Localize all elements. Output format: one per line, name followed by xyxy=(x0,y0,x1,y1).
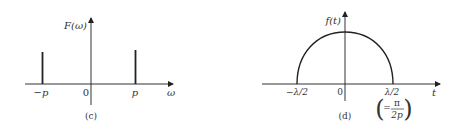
lambda-annotation: ( = π 2p ) xyxy=(375,95,412,123)
figure-canvas: F(ω) ω −p 0 p (c) f(t) t −λ/2 0 λ/2 ( = … xyxy=(0,0,459,130)
x-axis-label: t xyxy=(432,87,437,98)
tick-label-neg-p: −p xyxy=(34,87,49,98)
equals-sign: = xyxy=(383,103,391,113)
tick-label-half-lambda: λ/2 xyxy=(384,87,400,97)
y-axis-label: F(ω) xyxy=(63,20,87,31)
caption-d: (d) xyxy=(339,111,352,121)
close-paren: ) xyxy=(403,95,412,123)
figure-c: F(ω) ω −p 0 p (c) xyxy=(25,18,175,121)
tick-label-zero: 0 xyxy=(83,87,89,98)
fraction-denominator: 2p xyxy=(390,110,403,120)
y-axis-label: f(t) xyxy=(324,15,341,26)
tick-label-pos-p: p xyxy=(132,87,139,98)
fraction-numerator: π xyxy=(394,98,400,108)
x-axis-label: ω xyxy=(167,87,175,98)
tick-label-zero: 0 xyxy=(337,87,343,97)
tick-label-neg-half-lambda: −λ/2 xyxy=(286,87,308,97)
figure-d: f(t) t −λ/2 0 λ/2 ( = π 2p ) (d) xyxy=(262,12,440,123)
caption-c: (c) xyxy=(85,111,97,121)
